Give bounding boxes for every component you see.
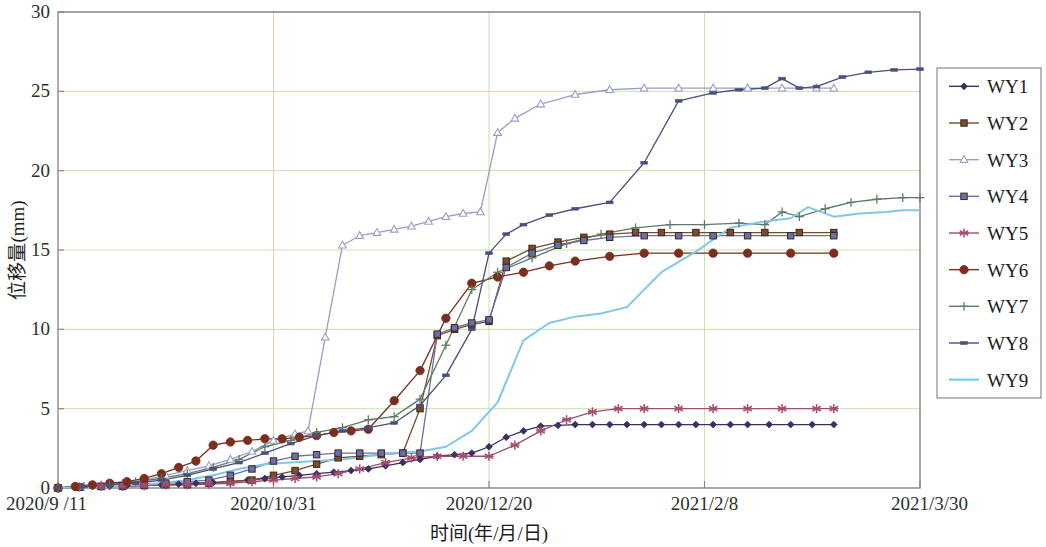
- data-point-marker: [829, 404, 838, 413]
- data-point-marker: [339, 429, 346, 432]
- data-point-marker: [830, 421, 837, 428]
- data-point-marker: [71, 482, 79, 490]
- data-point-marker: [335, 450, 341, 456]
- y-tick-label: 15: [31, 239, 50, 260]
- data-point-marker: [313, 461, 319, 467]
- data-point-marker: [710, 92, 717, 95]
- data-point-marker: [787, 421, 794, 428]
- chart-svg: 051015202530 2020/9 /112020/10/312020/12…: [0, 0, 1046, 547]
- data-point-marker: [658, 421, 665, 428]
- data-point-marker: [451, 325, 457, 331]
- data-point-marker: [606, 421, 613, 428]
- data-point-marker: [347, 427, 355, 435]
- data-point-marker: [417, 450, 423, 456]
- data-point-marker: [442, 314, 450, 322]
- data-point-marker: [666, 220, 675, 229]
- data-point-marker: [898, 193, 907, 202]
- data-point-marker: [675, 99, 682, 102]
- series-markers-wy4: [55, 233, 837, 492]
- data-point-marker: [916, 193, 925, 202]
- data-point-marker: [779, 77, 786, 80]
- data-point-marker: [743, 249, 751, 257]
- data-point-marker: [736, 88, 743, 91]
- data-point-marker: [510, 441, 519, 450]
- data-point-marker: [788, 233, 794, 239]
- data-point-marker: [675, 233, 681, 239]
- data-point-marker: [434, 331, 440, 337]
- legend-label-wy9: WY9: [987, 370, 1028, 391]
- data-point-marker: [700, 220, 709, 229]
- data-point-marker: [503, 434, 510, 441]
- data-point-marker: [486, 317, 492, 323]
- series-markers-wy5: [53, 404, 838, 493]
- data-point-marker: [597, 230, 606, 239]
- data-point-marker: [520, 223, 527, 226]
- data-point-marker: [641, 233, 647, 239]
- data-point-marker: [357, 450, 363, 456]
- data-point-marker: [292, 453, 298, 459]
- x-tick-label: 2020/12/20: [446, 493, 533, 514]
- y-tick-label: 30: [31, 1, 50, 22]
- data-point-marker: [709, 249, 717, 257]
- data-point-marker: [451, 451, 458, 458]
- data-point-marker: [348, 467, 355, 474]
- data-point-marker: [416, 366, 424, 374]
- data-point-marker: [486, 252, 493, 255]
- x-tick-labels: 2020/9 /112020/10/312020/12/202021/2/820…: [6, 493, 968, 514]
- data-point-marker: [744, 421, 751, 428]
- data-point-marker: [364, 415, 373, 424]
- y-tick-label: 5: [41, 398, 51, 419]
- data-point-marker: [400, 450, 406, 456]
- data-point-marker: [727, 421, 734, 428]
- series-line-wy6: [58, 253, 834, 488]
- legend-label-wy7: WY7: [987, 296, 1028, 317]
- data-point-marker: [503, 233, 510, 236]
- y-axis-title: 位移量(mm): [7, 200, 29, 299]
- data-point-marker: [766, 421, 773, 428]
- data-point-marker: [606, 201, 613, 204]
- data-point-marker: [503, 258, 509, 264]
- data-point-marker: [674, 404, 683, 413]
- y-tick-marks: [58, 12, 64, 488]
- data-point-marker: [813, 85, 820, 88]
- data-point-marker: [184, 474, 191, 477]
- data-point-marker: [961, 193, 967, 199]
- data-point-marker: [443, 374, 450, 377]
- data-point-marker: [287, 442, 294, 445]
- data-point-marker: [572, 207, 579, 210]
- data-point-marker: [292, 467, 298, 473]
- series-line-wy2: [58, 233, 834, 488]
- data-point-marker: [796, 87, 803, 90]
- data-point-marker: [248, 448, 256, 455]
- data-point-marker: [640, 404, 649, 413]
- data-point-marker: [469, 320, 475, 326]
- data-point-marker: [727, 229, 733, 235]
- data-point-marker: [917, 68, 924, 71]
- data-point-marker: [520, 427, 527, 434]
- data-point-marker: [961, 342, 968, 345]
- data-point-marker: [572, 421, 579, 428]
- data-point-marker: [313, 451, 319, 457]
- legend-label-wy5: WY5: [987, 223, 1028, 244]
- data-point-marker: [243, 436, 251, 444]
- data-point-marker: [132, 482, 139, 485]
- data-point-marker: [304, 427, 312, 434]
- data-point-marker: [545, 262, 553, 270]
- data-point-marker: [192, 457, 200, 465]
- x-tick-label: 2020/10/31: [230, 493, 317, 514]
- data-point-marker: [339, 241, 347, 248]
- data-point-marker: [477, 208, 485, 215]
- data-point-marker: [744, 233, 750, 239]
- data-point-marker: [606, 234, 612, 240]
- data-point-marker: [484, 452, 493, 461]
- data-point-marker: [693, 229, 699, 235]
- data-point-marker: [55, 487, 62, 490]
- data-point-marker: [503, 264, 509, 270]
- data-point-marker: [227, 472, 233, 478]
- data-point-marker: [709, 404, 718, 413]
- data-point-marker: [80, 485, 87, 488]
- data-point-marker: [710, 233, 716, 239]
- data-point-marker: [762, 229, 768, 235]
- data-point-marker: [624, 421, 631, 428]
- data-point-marker: [812, 404, 821, 413]
